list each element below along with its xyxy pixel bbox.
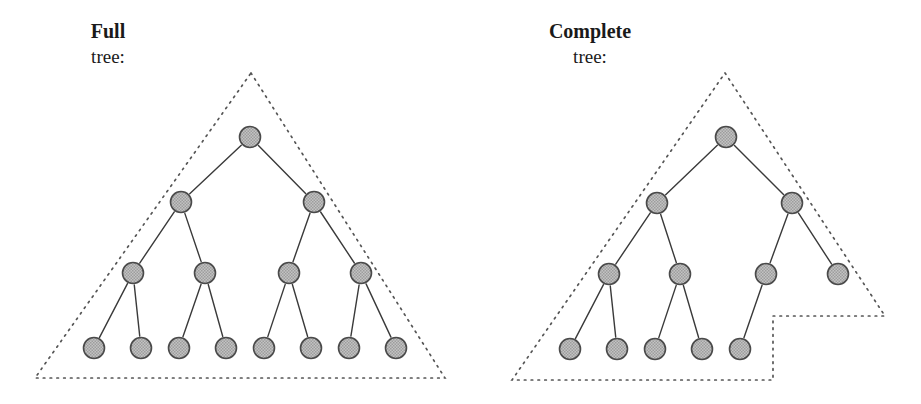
tree-node	[599, 264, 620, 285]
tree-node	[645, 339, 666, 360]
tree-node	[730, 339, 751, 360]
tree-node	[607, 339, 628, 360]
tree-node	[560, 339, 581, 360]
tree-node	[647, 193, 668, 214]
tree-node	[240, 127, 261, 148]
panel-title-complete-tree: Complete	[549, 20, 631, 43]
tree-node	[84, 338, 105, 359]
tree-node	[716, 127, 737, 148]
tree-node	[171, 192, 192, 213]
panel-subtitle-full-tree: tree:	[91, 46, 125, 67]
panel-subtitle-complete-tree: tree:	[573, 46, 607, 67]
tree-node	[169, 338, 190, 359]
tree-node	[756, 264, 777, 285]
tree-node	[782, 193, 803, 214]
tree-node	[304, 192, 325, 213]
tree-node	[279, 263, 300, 284]
tree-node	[301, 338, 322, 359]
tree-node	[254, 338, 275, 359]
tree-node	[351, 263, 372, 284]
tree-node	[386, 338, 407, 359]
figure-page: Fulltree:Completetree:	[0, 0, 921, 404]
tree-node	[339, 338, 360, 359]
tree-node	[216, 338, 237, 359]
tree-node	[131, 338, 152, 359]
tree-node	[670, 264, 691, 285]
tree-node	[692, 339, 713, 360]
binary-tree-figure: Fulltree:Completetree:	[0, 0, 921, 404]
tree-node	[123, 263, 144, 284]
tree-node	[828, 264, 849, 285]
panel-title-full-tree: Full	[91, 20, 126, 42]
tree-node	[195, 263, 216, 284]
